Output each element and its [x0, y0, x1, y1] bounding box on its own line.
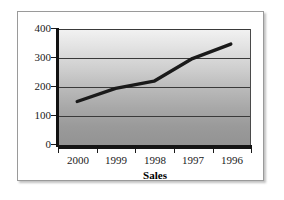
plot-area: [58, 29, 251, 145]
y-axis-line: [56, 28, 59, 147]
x-tick-label-1996: 1996: [212, 154, 252, 166]
x-tick-mark-3: [174, 149, 175, 153]
x-tick-label-1998: 1998: [135, 154, 175, 166]
chart-card: 400 300 200 100 0: [17, 11, 264, 181]
chart-figure: 400 300 200 100 0: [0, 0, 284, 200]
y-tick-label-400: 400: [17, 23, 51, 34]
x-tick-mark-1: [97, 149, 98, 153]
x-tick-label-1999: 1999: [96, 154, 136, 166]
y-tick-label-100: 100: [17, 110, 51, 121]
x-axis-line: [58, 145, 252, 149]
y-axis-labels: 400 300 200 100 0: [18, 12, 51, 182]
x-tick-mark-0: [58, 149, 59, 153]
x-tick-label-2000: 2000: [58, 154, 98, 166]
series-line-sales: [58, 29, 250, 145]
x-tick-mark-2: [135, 149, 136, 153]
x-tick-label-1997: 1997: [173, 154, 213, 166]
y-tick-label-200: 200: [17, 81, 51, 92]
x-tick-mark-4: [213, 149, 214, 153]
x-tick-mark-5: [251, 149, 252, 153]
y-tick-label-0: 0: [17, 139, 51, 150]
y-tick-label-300: 300: [17, 52, 51, 63]
x-axis-title: Sales: [58, 169, 252, 181]
